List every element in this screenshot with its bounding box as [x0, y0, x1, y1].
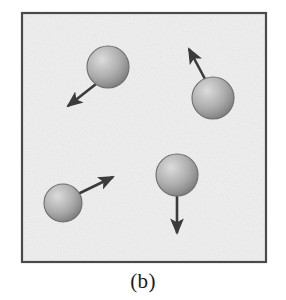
- sphere-bottom-middle: [156, 154, 198, 196]
- sphere-right: [192, 77, 234, 119]
- sphere-bottom-left: [44, 184, 82, 222]
- panel-interior: [22, 13, 266, 262]
- figure-caption: (b): [0, 268, 286, 294]
- figure-illustration: [0, 0, 286, 300]
- panel-box: [22, 13, 266, 262]
- figure-panel-b: (b): [0, 0, 286, 300]
- sphere-top-left: [87, 46, 129, 88]
